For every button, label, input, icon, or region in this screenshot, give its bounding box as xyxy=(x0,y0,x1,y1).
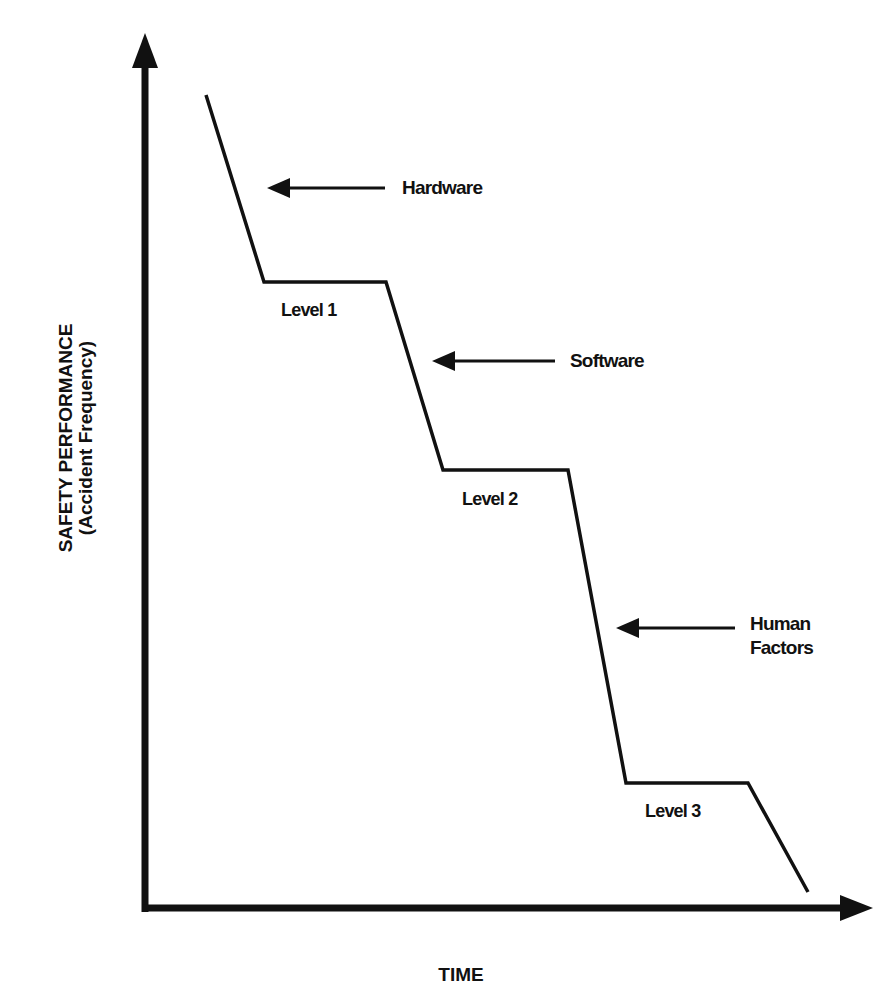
x-axis-arrowhead-icon xyxy=(840,895,873,921)
hardware-arrow xyxy=(267,178,385,198)
arrow-left-icon xyxy=(267,178,290,198)
y-axis-label-line1: SAFETY PERFORMANCE xyxy=(55,324,76,553)
safety-performance-diagram: Hardware Software Human Factors Level 1 … xyxy=(0,0,895,1000)
arrow-left-icon xyxy=(432,351,455,371)
label-level-1: Level 1 xyxy=(281,300,337,320)
label-hardware: Hardware xyxy=(402,177,482,198)
label-factors: Factors xyxy=(750,637,813,658)
y-axis-arrowhead-icon xyxy=(132,33,158,68)
y-axis xyxy=(132,33,158,912)
y-axis-label-line2: (Accident Frequency) xyxy=(75,341,96,535)
x-axis-label: TIME xyxy=(438,964,483,985)
label-level-2: Level 2 xyxy=(462,489,518,509)
label-software: Software xyxy=(570,350,644,371)
human-factors-arrow xyxy=(616,618,735,638)
label-level-3: Level 3 xyxy=(645,801,701,821)
arrow-left-icon xyxy=(616,618,639,638)
label-human: Human xyxy=(750,613,811,634)
software-arrow xyxy=(432,351,555,371)
x-axis xyxy=(142,895,873,921)
